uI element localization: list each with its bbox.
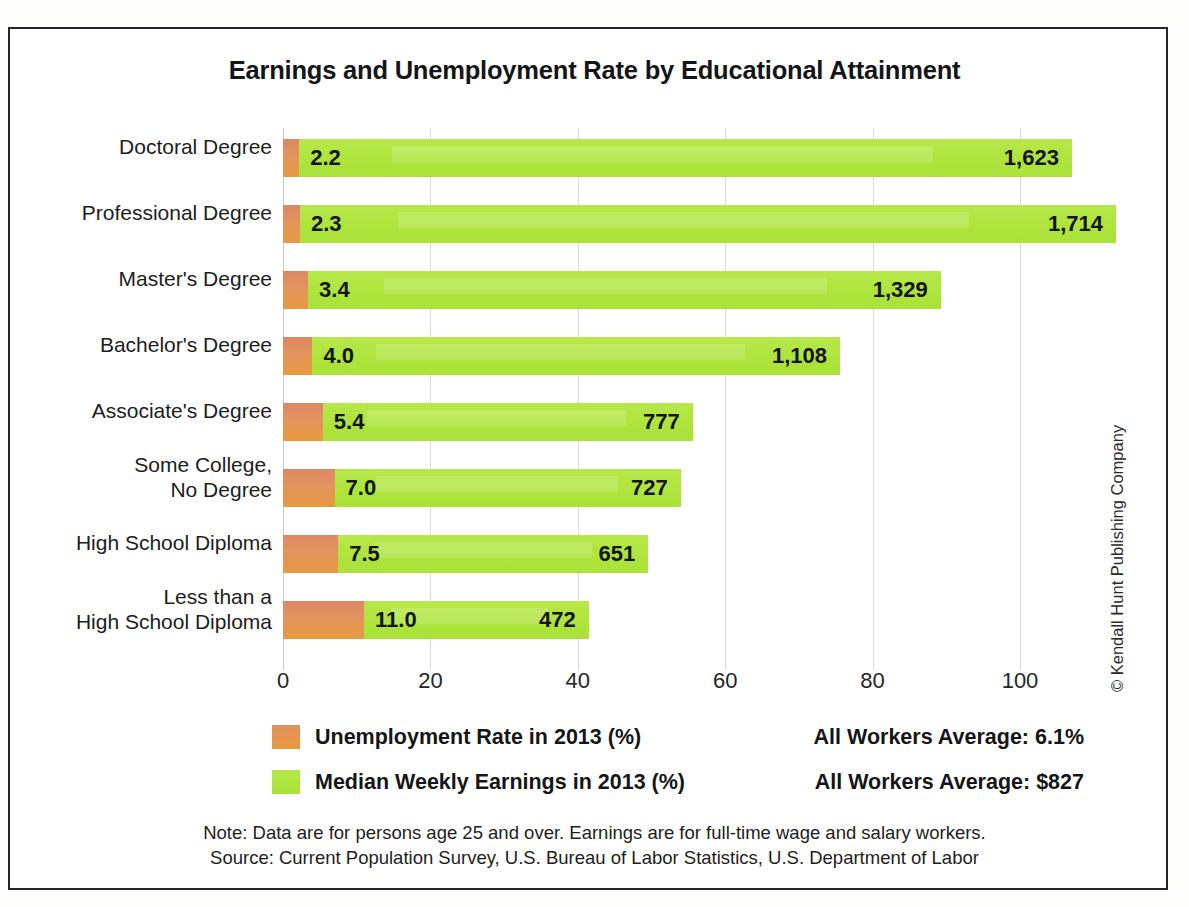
bar-value-earnings: 1,329	[283, 271, 928, 309]
bar-value-earnings: 1,108	[283, 337, 827, 375]
legend-swatch-earnings-icon	[272, 770, 300, 794]
category-label: Associate's Degree	[12, 398, 272, 423]
category-label-line: Doctoral Degree	[12, 134, 272, 159]
chart-legend: Unemployment Rate in 2013 (%) All Worker…	[272, 718, 1102, 808]
bar-value-earnings: 1,623	[283, 139, 1059, 177]
x-axis-tick-label: 100	[1002, 668, 1039, 694]
category-label: High School Diploma	[12, 530, 272, 555]
bar-value-earnings: 727	[283, 469, 668, 507]
category-label-line: Master's Degree	[12, 266, 272, 291]
bar-value-earnings: 651	[283, 535, 635, 573]
category-label-line: Less than a	[12, 584, 272, 609]
x-axis: 020406080100	[283, 660, 1020, 700]
category-label-line: No Degree	[12, 477, 272, 502]
category-label-line: High School Diploma	[12, 530, 272, 555]
legend-label-earnings: Median Weekly Earnings in 2013 (%)	[315, 770, 685, 795]
bar-value-earnings: 777	[283, 403, 680, 441]
x-axis-tick-label: 40	[566, 668, 590, 694]
legend-label-unemployment: Unemployment Rate in 2013 (%)	[315, 725, 641, 750]
category-label-line: Bachelor's Degree	[12, 332, 272, 357]
legend-row-earnings: Median Weekly Earnings in 2013 (%) All W…	[272, 763, 1102, 801]
x-axis-tick-label: 80	[860, 668, 884, 694]
legend-row-unemployment: Unemployment Rate in 2013 (%) All Worker…	[272, 718, 1102, 756]
x-axis-tick-label: 20	[418, 668, 442, 694]
category-axis-labels: Doctoral DegreeProfessional DegreeMaster…	[10, 128, 272, 658]
footnote-note-line: Note: Data are for persons age 25 and ov…	[0, 820, 1189, 845]
x-axis-tick-label: 60	[713, 668, 737, 694]
figure-root: Earnings and Unemployment Rate by Educat…	[0, 0, 1189, 907]
category-label: Master's Degree	[12, 266, 272, 291]
bar-value-earnings: 1,714	[283, 205, 1103, 243]
category-label: Less than aHigh School Diploma	[12, 584, 272, 634]
bar-value-earnings: 472	[283, 601, 576, 639]
legend-average-unemployment: All Workers Average: 6.1%	[814, 725, 1102, 750]
legend-swatch-unemployment-icon	[272, 725, 300, 749]
legend-average-earnings: All Workers Average: $827	[815, 770, 1102, 795]
category-label: Bachelor's Degree	[12, 332, 272, 357]
publisher-credit-text: © Kendall Hunt Publishing Company	[1108, 352, 1127, 692]
category-label-line: Some College,	[12, 452, 272, 477]
category-label: Doctoral Degree	[12, 134, 272, 159]
category-label-line: High School Diploma	[12, 609, 272, 634]
plot-area: 2.21,6232.31,7143.41,3294.01,1085.47777.…	[283, 128, 1020, 658]
publisher-credit: © Kendall Hunt Publishing Company	[1108, 12, 1127, 352]
chart-footnote: Note: Data are for persons age 25 and ov…	[0, 820, 1189, 870]
category-label-line: Professional Degree	[12, 200, 272, 225]
x-axis-tick-label: 0	[277, 668, 289, 694]
footnote-source-line: Source: Current Population Survey, U.S. …	[0, 845, 1189, 870]
category-label-line: Associate's Degree	[12, 398, 272, 423]
category-label: Some College,No Degree	[12, 452, 272, 502]
page-title: Earnings and Unemployment Rate by Educat…	[0, 56, 1189, 85]
category-label: Professional Degree	[12, 200, 272, 225]
